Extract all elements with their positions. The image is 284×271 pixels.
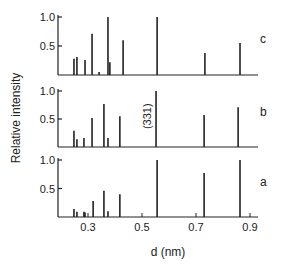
x-tick-label: 0.5 (134, 221, 149, 233)
x-tick-label: 0.3 (80, 221, 95, 233)
x-tick-label: 0.7 (188, 221, 203, 233)
y-tick-label: 0.5 (40, 40, 55, 52)
panel-label: c (260, 32, 266, 46)
y-tick-label: 0.5 (40, 183, 55, 195)
y-axis-label: Relative intensity (9, 73, 23, 164)
panel-a: 0.51.0a0.30.50.70.9 (40, 154, 267, 233)
x-axis-label: d (nm) (151, 245, 186, 259)
y-tick-label: 1.0 (40, 85, 55, 97)
peak-annotation: (331) (141, 103, 153, 129)
y-tick-label: 0.5 (40, 113, 55, 125)
panel-b: 0.51.0b(331) (40, 85, 267, 147)
y-tick-label: 1.0 (40, 154, 55, 166)
panel-label: a (260, 175, 267, 189)
panel-label: b (260, 105, 267, 119)
diffraction-chart: 0.51.0c0.51.0b(331)0.51.0a0.30.50.70.9 R… (0, 0, 284, 271)
panel-c: 0.51.0c (40, 11, 266, 75)
y-tick-label: 1.0 (40, 11, 55, 23)
x-tick-label: 0.9 (242, 221, 257, 233)
